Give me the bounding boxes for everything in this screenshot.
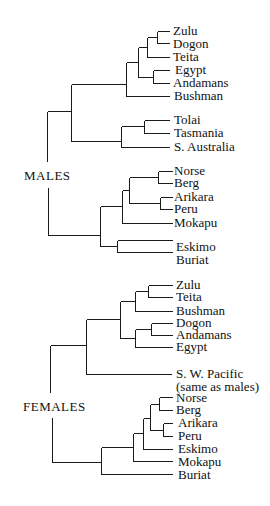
leaf-label: Mokapu [174,215,218,230]
leaf-label: Egypt [176,339,207,354]
females-labels: Zulu Teita Bushman Dogon Andamans Egypt … [23,277,259,482]
males-group-label: MALES [24,168,71,183]
females-group-label: FEMALES [23,399,86,414]
leaf-label: Buriat [178,467,211,482]
leaf-label: S. Australia [174,139,235,154]
leaf-label: Peru [174,201,198,216]
leaf-label: Tasmania [174,125,224,140]
leaf-label: Berg [174,175,200,190]
leaf-label: Teita [176,289,202,304]
leaf-label: Bushman [174,88,224,103]
dendrogram: Zulu Dogon Teita Egypt Andamans Bushman … [0,0,270,506]
leaf-label: Buriat [176,252,209,267]
females-tree [51,286,174,475]
males-tree [48,32,174,253]
males-labels: Zulu Dogon Teita Egypt Andamans Bushman … [24,23,235,267]
